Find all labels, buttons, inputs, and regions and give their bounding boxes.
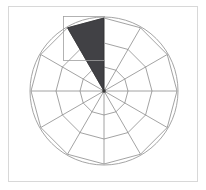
angular-spoke-5 <box>104 91 167 128</box>
angular-spoke-6 <box>104 91 141 154</box>
angular-spoke-3 <box>104 55 167 92</box>
figure-container <box>0 0 206 190</box>
chart-center-marker <box>102 89 105 92</box>
center-dot <box>102 89 105 92</box>
polar-sector-chart <box>0 0 206 190</box>
angular-spoke-2 <box>104 28 141 91</box>
angular-spoke-8 <box>68 91 105 154</box>
angular-spoke-9 <box>41 91 104 128</box>
